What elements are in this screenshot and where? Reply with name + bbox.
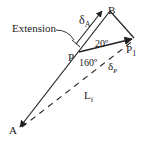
label-b: B <box>108 4 115 16</box>
label-a: A <box>9 124 17 136</box>
extension-leader <box>56 30 74 40</box>
label-angle-20: 20º <box>95 38 108 49</box>
label-delta-a: δA <box>79 13 91 29</box>
label-p1: P1 <box>126 43 136 58</box>
label-angle-160: 160º <box>79 57 97 68</box>
label-extension: Extension <box>12 22 56 34</box>
label-delta-p: δP <box>108 60 117 75</box>
geometry-diagram: Extension δA B P 20º 160º P1 δP Lf A <box>0 0 143 142</box>
label-p: P <box>68 51 74 63</box>
label-lf: Lf <box>84 89 94 104</box>
